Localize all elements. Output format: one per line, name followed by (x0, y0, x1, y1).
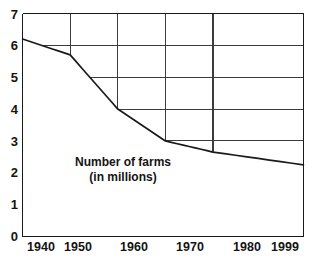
y-tick-4: 4 (2, 103, 18, 116)
data-line-number-of-farms (23, 39, 304, 165)
y-tick-2: 2 (2, 166, 18, 179)
y-tick-0: 0 (2, 230, 18, 243)
x-tick-1940: 1940 (22, 241, 60, 254)
plot-area (0, 0, 314, 261)
y-tick-7: 7 (2, 8, 18, 21)
y-tick-1: 1 (2, 198, 18, 211)
x-tick-1980: 1980 (228, 241, 266, 254)
series-annotation-line2: (in millions) (58, 170, 188, 185)
y-tick-3: 3 (2, 135, 18, 148)
x-tick-1960: 1960 (115, 241, 153, 254)
vertical-gridlines (70, 14, 213, 153)
y-tick-6: 6 (2, 39, 18, 52)
series-annotation-line1: Number of farms (58, 155, 188, 170)
x-tick-1950: 1950 (59, 241, 97, 254)
x-tick-1970: 1970 (171, 241, 209, 254)
horizontal-gridlines (42, 45, 304, 141)
series-annotation: Number of farms (in millions) (58, 155, 188, 185)
line-chart: 7 6 5 4 3 2 1 0 1940 1950 1960 1970 1980… (0, 0, 314, 261)
x-tick-1999: 1999 (266, 241, 304, 254)
y-tick-5: 5 (2, 71, 18, 84)
axis-lines (23, 14, 304, 237)
